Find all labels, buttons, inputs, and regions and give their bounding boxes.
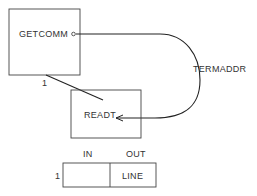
data-couple-label: TERMADDR bbox=[193, 64, 247, 74]
module-readt-label: READT bbox=[84, 110, 116, 120]
table-cell-out: LINE bbox=[122, 171, 143, 181]
module-getcomm-label: GETCOMM bbox=[19, 29, 68, 39]
module-getcomm-box[interactable] bbox=[9, 9, 80, 75]
table-header-in: IN bbox=[83, 149, 93, 159]
structure-chart: GETCOMM 1 TERMADDR READT IN OUT 1 LINE bbox=[0, 0, 257, 196]
data-couple-curve bbox=[76, 34, 200, 118]
invocation-label: 1 bbox=[42, 78, 47, 88]
data-couple-tail-icon bbox=[72, 32, 76, 36]
invocation-line bbox=[46, 75, 103, 100]
table-row-label: 1 bbox=[55, 171, 60, 181]
table-header-out: OUT bbox=[126, 149, 146, 159]
